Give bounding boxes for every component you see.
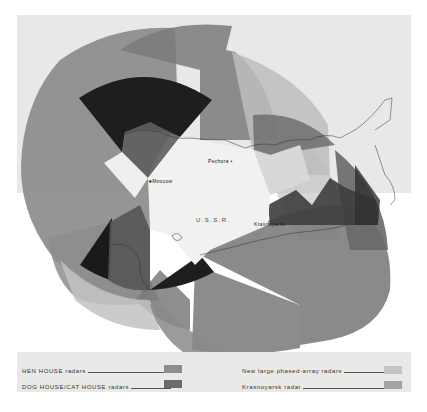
legend-label: DOG HOUSE/CAT HOUSE radars xyxy=(22,384,129,390)
legend-item-phased-array: New large phased-array radars xyxy=(242,368,389,374)
city-label-pechora: Pechora xyxy=(208,158,229,164)
pechora-marker: Pechora • xyxy=(208,158,232,164)
legend-item-hen-house: HEN HOUSE radars xyxy=(22,368,170,374)
region-label: U.S.S.R. xyxy=(196,217,231,223)
legend-item-krasnoyarsk: Krasnoyarsk radar xyxy=(242,384,389,390)
legend-swatch-krasnoyarsk xyxy=(384,381,402,389)
legend-item-dog-house: DOG HOUSE/CAT HOUSE radars xyxy=(22,384,171,390)
moscow-marker: ★Moscow xyxy=(148,178,172,184)
city-label-krasnoyarsk: Krasnoyarsk xyxy=(254,221,285,227)
legend-label: Krasnoyarsk radar xyxy=(242,384,301,390)
legend-label: New large phased-array radars xyxy=(242,368,342,374)
radar-coverage-map xyxy=(0,0,427,412)
city-label-moscow: Moscow xyxy=(152,178,172,184)
dot-icon: • xyxy=(229,158,233,164)
legend-swatch-dog-house xyxy=(164,380,182,388)
krasnoyarsk-marker: Krasnoyarsk xyxy=(254,221,285,227)
legend-label: HEN HOUSE radars xyxy=(22,368,86,374)
legend-swatch-phased-array xyxy=(384,366,402,374)
legend-swatch-hen-house xyxy=(164,365,182,373)
